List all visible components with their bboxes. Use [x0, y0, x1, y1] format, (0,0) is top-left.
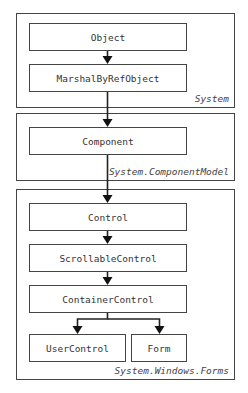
class-form: Form — [131, 334, 187, 362]
namespace-label-system: System — [195, 93, 229, 104]
class-container-control: ContainerControl — [29, 285, 187, 313]
namespace-label-componentmodel: System.ComponentModel — [109, 166, 229, 177]
class-object: Object — [29, 23, 187, 51]
class-scrollable-control: ScrollableControl — [29, 244, 187, 272]
class-control: Control — [29, 203, 187, 231]
class-component: Component — [29, 127, 187, 155]
class-marshal-by-ref-object: MarshalByRefObject — [29, 64, 187, 92]
namespace-label-windows-forms: System.Windows.Forms — [115, 365, 229, 376]
class-user-control: UserControl — [29, 334, 126, 362]
